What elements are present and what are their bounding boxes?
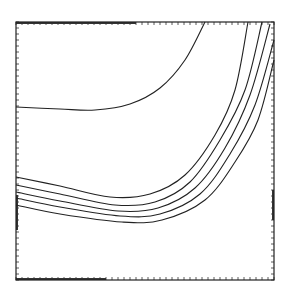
contour-plot xyxy=(0,0,292,296)
plot-frame xyxy=(16,22,274,280)
curve-1 xyxy=(16,22,205,110)
axis-ticks xyxy=(16,22,274,280)
curve-3 xyxy=(16,22,262,206)
curve-2 xyxy=(16,22,248,198)
curves xyxy=(16,22,274,223)
curve-6 xyxy=(16,60,274,223)
